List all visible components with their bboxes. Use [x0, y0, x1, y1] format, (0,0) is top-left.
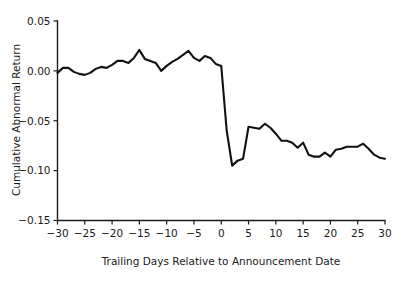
- y-tick-label: 0.05: [27, 15, 50, 27]
- x-tick-label: 10: [269, 227, 282, 239]
- x-tick-label: 30: [378, 227, 391, 239]
- x-tick-label: −30: [46, 227, 68, 239]
- x-axis-tick-labels: −30−25−20−15−10−5051015202530: [46, 227, 391, 239]
- x-tick-label: −25: [74, 227, 96, 239]
- x-tick-label: 25: [351, 227, 364, 239]
- y-axis-tick-labels: 0.050.00−0.05−0.10−0.15: [18, 15, 50, 227]
- x-tick-label: 5: [245, 227, 252, 239]
- x-axis-title: Trailing Days Relative to Announcement D…: [101, 255, 341, 267]
- x-tick-label: −20: [101, 227, 123, 239]
- x-tick-label: 20: [324, 227, 337, 239]
- x-tick-label: −15: [128, 227, 150, 239]
- x-tick-label: −5: [186, 227, 201, 239]
- x-tick-label: 0: [218, 227, 225, 239]
- data-line-cumulative-abnormal-return: [58, 50, 386, 166]
- chart-figure: 0.050.00−0.05−0.10−0.15 −30−25−20−15−10−…: [0, 0, 403, 285]
- y-axis-title: Cumulative Abnormal Return: [10, 44, 22, 196]
- x-tick-label: 15: [296, 227, 309, 239]
- y-tick-label: 0.00: [27, 65, 50, 77]
- axis-spine: [58, 21, 386, 221]
- chart-canvas: 0.050.00−0.05−0.10−0.15 −30−25−20−15−10−…: [0, 0, 403, 285]
- y-tick-label: −0.15: [18, 214, 50, 226]
- x-tick-label: −10: [156, 227, 178, 239]
- y-tick-label: −0.10: [18, 164, 50, 176]
- y-tick-label: −0.05: [18, 115, 50, 127]
